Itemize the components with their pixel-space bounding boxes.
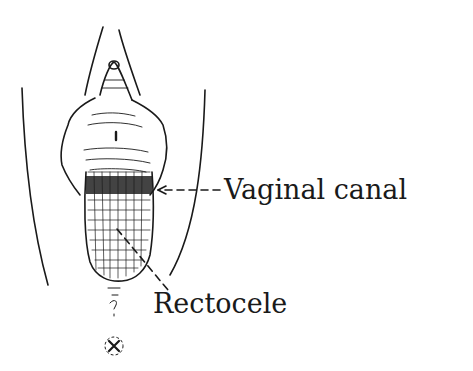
right-thigh-outline [170,90,205,275]
rectocele-diagram: Vaginal canal Rectocele [0,0,473,371]
clitoral-hood [100,62,132,100]
upper-fold-right [119,30,140,95]
left-thigh-outline [22,88,48,285]
anus-mark [105,337,123,355]
upper-fold-left [85,27,103,95]
label-rectocele: Rectocele [153,288,287,319]
label-vaginal-canal: Vaginal canal [223,174,407,205]
perineum-marks [108,288,120,316]
